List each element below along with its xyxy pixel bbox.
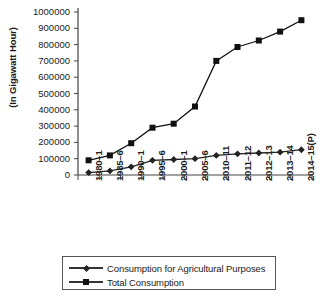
legend-item-total: Total Consumption <box>69 275 184 289</box>
data-point-marker <box>107 152 113 158</box>
data-point-marker <box>149 157 156 164</box>
legend-label: Consumption for Agricultural Purposes <box>107 263 265 274</box>
data-point-marker <box>128 140 134 146</box>
data-point-marker <box>192 104 198 110</box>
data-point-marker <box>256 38 262 44</box>
data-point-marker <box>150 125 156 131</box>
data-point-marker <box>298 146 305 153</box>
data-point-marker <box>192 155 199 162</box>
data-point-marker <box>255 150 262 157</box>
series-line <box>89 20 302 160</box>
data-point-marker <box>213 152 220 159</box>
legend-item-agricultural: Consumption for Agricultural Purposes <box>69 261 265 275</box>
data-point-marker <box>213 58 219 64</box>
data-point-marker <box>171 121 177 127</box>
square-marker-icon <box>69 281 103 283</box>
data-point-marker <box>128 163 135 170</box>
data-point-marker <box>277 29 283 35</box>
chart-legend: Consumption for Agricultural Purposes To… <box>62 256 276 290</box>
line-chart: (In Gigawatt Hour) 010000020000030000040… <box>0 0 322 300</box>
data-point-marker <box>234 150 241 157</box>
plot-area <box>0 0 322 300</box>
legend-label: Total Consumption <box>107 277 184 288</box>
data-point-marker <box>235 44 241 50</box>
data-point-marker <box>298 17 304 23</box>
data-point-marker <box>86 157 92 163</box>
data-point-marker <box>170 156 177 163</box>
data-point-marker <box>107 168 114 175</box>
diamond-marker-icon <box>69 267 103 269</box>
data-point-marker <box>277 149 284 156</box>
